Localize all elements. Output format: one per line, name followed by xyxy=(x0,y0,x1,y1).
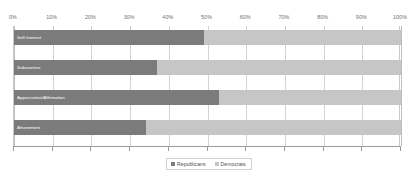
bar-segment-republicans xyxy=(14,60,157,75)
x-tick-label-30: 30% xyxy=(124,14,135,21)
x-tick-label-60: 60% xyxy=(240,14,251,21)
x-tick-30 xyxy=(129,146,130,151)
bar-segment-democrats xyxy=(157,60,401,75)
x-tick-90 xyxy=(361,146,362,151)
x-tick-80 xyxy=(323,146,324,151)
legend-label-republicans: Republicans xyxy=(177,161,206,168)
legend-swatch-icon-democrats xyxy=(215,162,219,166)
bar-row: Attunement xyxy=(14,120,399,135)
bar-segment-democrats xyxy=(146,120,401,135)
chart-legend: Republicans Democrats xyxy=(166,158,252,170)
x-tick-70 xyxy=(284,146,285,151)
plot-area: Self-InterestSubstantiveAppreciation/Aff… xyxy=(13,26,400,146)
x-tick-60 xyxy=(245,146,246,151)
x-tick-10 xyxy=(52,146,53,151)
gridline-100 xyxy=(401,26,402,146)
bar-row: Substantive xyxy=(14,60,399,75)
bar-segment-republicans xyxy=(14,30,204,45)
stacked-bar-chart: 0%10%20%30%40%50%60%70%80%90%100% Self-I… xyxy=(0,0,416,179)
bar-segment-democrats xyxy=(219,90,401,105)
x-tick-100 xyxy=(400,146,401,151)
x-tick-0 xyxy=(13,146,14,151)
legend-item-republicans: Republicans xyxy=(171,161,206,168)
x-tick-50 xyxy=(207,146,208,151)
bar-segment-democrats xyxy=(204,30,401,45)
x-tick-40 xyxy=(168,146,169,151)
x-tick-20 xyxy=(90,146,91,151)
bar-row: Self-Interest xyxy=(14,30,399,45)
x-tick-label-10: 10% xyxy=(46,14,57,21)
legend-swatch-icon-republicans xyxy=(171,162,175,166)
bar-segment-republicans xyxy=(14,90,219,105)
bar-row: Appreciation/Affirmation xyxy=(14,90,399,105)
x-tick-label-70: 70% xyxy=(278,14,289,21)
legend-label-democrats: Democrats xyxy=(221,161,246,168)
x-tick-label-100: 100% xyxy=(393,14,407,21)
x-tick-label-80: 80% xyxy=(317,14,328,21)
x-tick-label-90: 90% xyxy=(356,14,367,21)
x-tick-label-0: 0% xyxy=(9,14,17,21)
x-tick-label-20: 20% xyxy=(85,14,96,21)
x-tick-label-50: 50% xyxy=(201,14,212,21)
legend-item-democrats: Democrats xyxy=(215,161,246,168)
bar-segment-republicans xyxy=(14,120,146,135)
x-tick-label-40: 40% xyxy=(162,14,173,21)
